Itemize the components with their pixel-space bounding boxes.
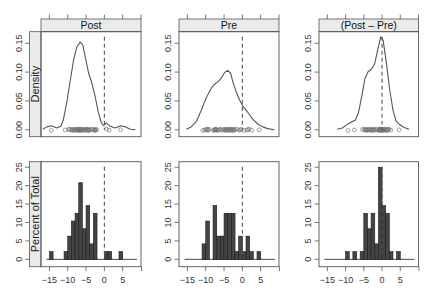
histogram-bar [367,229,371,260]
y-tick-label: 20 [303,181,313,191]
y-tick-label: 15 [303,199,313,209]
density-curve [43,42,136,130]
histogram-bar [119,252,123,260]
y-tick-label: 20 [14,181,24,191]
x-tick-label: −5 [359,275,369,285]
data-point [346,129,350,133]
histogram-bar [235,252,239,260]
histogram-bar [353,252,357,260]
y-tick-label: 0.10 [14,63,24,81]
plot-area [186,37,274,133]
x-tick-label: 0 [380,275,385,285]
data-point [352,128,356,132]
histogram-bar [375,244,379,259]
y-tick-label: 0.00 [14,121,24,139]
histogram-bar [217,236,221,259]
histogram-panel-post-pre: −15−10−5050510152025 [303,162,419,285]
y-tick-label: 25 [14,162,24,172]
y-tick-label: 0.10 [163,63,173,81]
y-tick-label: 0.05 [163,92,173,110]
y-tick-label: 15 [14,199,24,209]
x-tick-label: −10 [338,275,353,285]
panel-frame [41,32,141,137]
y-tick-label: 20 [163,181,173,191]
histogram-bar [364,213,368,259]
density-curve [186,70,274,129]
y-tick-label: 25 [163,162,173,172]
y-tick-label: 10 [163,217,173,227]
histogram-bar [389,252,393,260]
y-tick-label: 10 [303,217,313,227]
data-point [397,128,401,132]
histogram-bar [231,213,235,259]
histogram-bar [90,244,94,259]
histogram-bar [93,213,97,259]
plot-area [324,167,414,260]
x-tick-label: 5 [398,275,403,285]
y-tick-label: 10 [14,217,24,227]
y-tick-label: 25 [303,162,313,172]
histogram-bar [64,252,68,260]
histogram-bar [220,236,224,259]
histogram-bar [206,221,210,259]
panel-frame [319,32,419,137]
x-tick-label: −15 [180,275,195,285]
density-panel-pre: Pre0.000.050.100.15 [163,15,279,139]
histogram-bar [397,252,401,260]
y-tick-label: 0 [14,257,24,262]
histogram-bar [360,252,364,260]
y-tick-label: 0.05 [14,92,24,110]
x-tick-label: −15 [42,275,57,285]
histogram-bar [371,213,375,259]
histogram-bar [250,252,254,260]
row-strip-density-label: Density [29,65,41,102]
y-tick-label: 0.15 [14,34,24,52]
histogram-bar [257,252,261,260]
histogram-bar [246,236,250,259]
histogram-bar [386,213,390,259]
histogram-bar [71,221,75,259]
x-tick-label: 0 [102,275,107,285]
histogram-bar [213,206,217,260]
plot-area [184,167,274,260]
x-tick-label: −5 [81,275,91,285]
x-tick-label: 0 [240,275,245,285]
histogram-bar [49,252,53,260]
row-strip-density: Density [29,32,42,137]
y-tick-label: 0.00 [163,121,173,139]
data-point [119,128,123,132]
y-tick-label: 15 [163,199,173,209]
data-point [257,128,261,132]
row-strip-histogram-label: Percent of Total [29,176,41,252]
histogram-bar [346,252,350,260]
histogram-bar [228,213,232,259]
x-tick-label: 5 [120,275,125,285]
x-tick-label: −10 [60,275,75,285]
panel-strip-label: (Post – Pre) [341,19,397,31]
histogram-bar [79,183,83,260]
histogram-bar [86,206,90,260]
histogram-bar [202,244,206,259]
x-tick-label: 5 [258,275,263,285]
y-tick-label: 5 [163,238,173,243]
plot-area [337,37,409,133]
panels: Post0.000.050.100.15Pre0.000.050.100.15(… [14,15,420,285]
y-tick-label: 0.05 [303,92,313,110]
y-tick-label: 0 [303,257,313,262]
y-tick-label: 5 [14,238,24,243]
y-tick-label: 0 [163,257,173,262]
histogram-panel-pre: −15−10−5050510152025 [163,162,280,285]
panel-strip-label: Post [80,19,101,31]
histogram-bar [82,229,86,260]
x-tick-label: −15 [320,275,335,285]
panel-frame [179,32,279,137]
row-strip-histogram: Percent of Total [29,162,42,267]
density-curve [337,37,409,129]
y-tick-label: 5 [303,238,313,243]
y-tick-label: 0.10 [303,63,313,81]
plot-area [46,167,136,260]
plot-area [43,37,136,133]
y-tick-label: 0.15 [163,34,173,52]
lattice-figure: Density Percent of Total Post0.000.050.1… [0,0,431,295]
density-panel-post-pre: (Post – Pre)0.000.050.100.15 [303,15,419,139]
